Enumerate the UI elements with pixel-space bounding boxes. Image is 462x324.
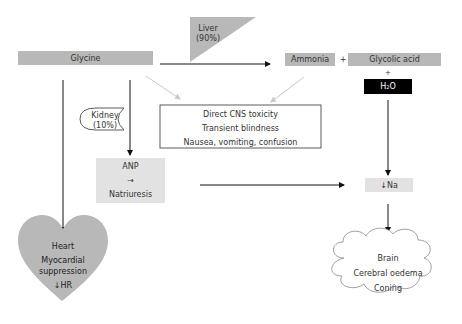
liver-label-line1: Liver xyxy=(194,24,222,34)
water-o: O xyxy=(389,82,395,91)
brain-line1: Brain xyxy=(340,251,436,266)
cns-effect-2: Transient blindness xyxy=(160,122,321,136)
heart-line1: Heart xyxy=(28,241,98,252)
anp-line3: Natriuresis xyxy=(109,188,152,202)
glycolic-acid-box: Glycolic acid xyxy=(348,53,441,66)
cns-effect-3: Nausea, vomiting, confusion xyxy=(160,136,321,150)
plus-sign-1: + xyxy=(338,56,348,64)
glycine-box: Glycine xyxy=(18,51,153,65)
ammonia-box: Ammonia xyxy=(285,53,335,66)
anp-box: ANP → Natriuresis xyxy=(96,158,165,203)
anp-line2: → xyxy=(127,174,134,188)
heart-line3: suppression xyxy=(28,266,98,277)
liver-label: Liver (90%) xyxy=(194,24,222,44)
heart-label: Heart Myocardial suppression ↓HR xyxy=(28,241,98,291)
kidney-label-line1: Kidney xyxy=(88,111,122,121)
sodium-box: ↓Na xyxy=(365,178,413,192)
brain-line3: Coning xyxy=(340,281,436,296)
heart-line4: ↓HR xyxy=(28,280,98,291)
arrow-glycine-to-cns xyxy=(146,76,180,99)
kidney-label-line2: (10%) xyxy=(88,121,122,131)
kidney-label: Kidney (10%) xyxy=(88,111,122,131)
plus-sign-2: + xyxy=(383,70,393,77)
heart-line2: Myocardial xyxy=(28,255,98,266)
brain-label: Brain Cerebral oedema Coning xyxy=(340,251,436,296)
cns-effects-box: Direct CNS toxicity Transient blindness … xyxy=(160,108,321,150)
liver-label-line2: (90%) xyxy=(194,34,222,44)
arrow-ammonia-to-cns xyxy=(271,77,304,102)
brain-line2: Cerebral oedema xyxy=(340,266,436,281)
water-box: H2O xyxy=(364,79,412,94)
cns-effect-1: Direct CNS toxicity xyxy=(160,108,321,122)
anp-line1: ANP xyxy=(122,160,138,174)
